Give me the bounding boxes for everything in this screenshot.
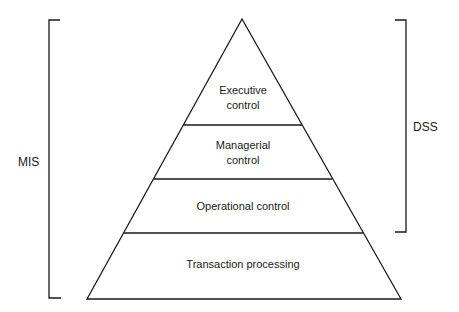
layer-executive-line1: Executive [219, 84, 267, 96]
layer-operational-label: Operational control [197, 200, 290, 212]
dss-label: DSS [413, 120, 438, 134]
layer-managerial-line2: control [226, 154, 259, 166]
layer-transaction-label: Transaction processing [186, 258, 299, 270]
pyramid-diagram: Executive control Managerial control Ope… [0, 0, 459, 312]
dss-bracket [395, 20, 406, 232]
layer-executive-line2: control [226, 99, 259, 111]
layer-managerial-line1: Managerial [216, 139, 270, 151]
mis-bracket [49, 20, 61, 298]
mis-label: MIS [18, 155, 39, 169]
